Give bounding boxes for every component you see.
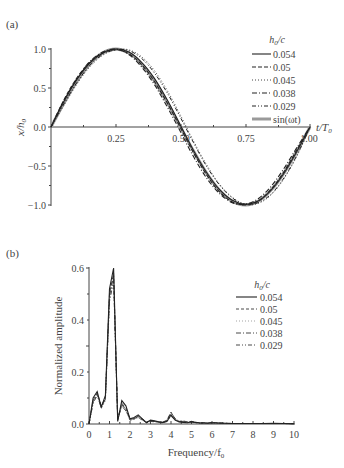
panel-a-x-label: t/T0 [316,121,332,135]
panel-a: (a) 1.0 0.5 0.0 −0.5 −1.0 x/h0 [6,18,332,211]
y-tick-label: 0.4 [72,315,85,326]
x-tick-label: 10 [289,429,299,440]
panel-b-y-tick-labels: 0.6 0.4 0.2 0.0 [72,263,85,430]
x-tick-label: 0.75 [237,133,255,144]
x-tick-label: 0 [87,429,92,440]
panel-a-legend: h0/c 0.054 0.05 0.045 0.038 0.029 sin(ωt… [252,34,301,126]
panel-b-x-label: Frequency/f0 [168,446,225,460]
panel-b: (b) 0.6 0.4 0.2 0.0 Normalized amplitude… [6,247,299,460]
y-tick-label: 0.0 [72,419,85,430]
y-tick-label: 0.0 [34,122,47,133]
x-tick-label: 6 [210,429,215,440]
x-tick-label: 3 [148,429,153,440]
legend-title: h0/c [269,34,285,47]
panel-b-label: (b) [6,247,19,260]
x-tick-label: 1 [107,429,112,440]
legend-item: 0.05 [273,62,291,73]
legend-item: 0.038 [273,88,296,99]
legend-item: 0.045 [260,316,283,327]
x-tick-label: 7 [230,429,235,440]
x-tick-label: 4 [169,429,174,440]
panel-b-x-tick-labels: 0 1 2 3 4 5 6 7 8 9 10 [87,429,300,440]
x-tick-label: 9 [271,429,276,440]
figure: (a) 1.0 0.5 0.0 −0.5 −1.0 x/h0 [0,0,344,468]
y-tick-label: −0.5 [28,161,46,172]
y-tick-label: 1.0 [34,44,47,55]
legend-item: sin(ωt) [273,114,301,126]
legend-item: 0.054 [260,292,283,303]
x-tick-label: 0.25 [107,133,125,144]
legend-item: 0.054 [273,49,296,60]
panel-a-y-tick-labels: 1.0 0.5 0.0 −0.5 −1.0 [28,44,46,211]
legend-title: h0/c [254,279,270,292]
panel-b-y-label: Normalized amplitude [52,297,64,396]
y-tick-label: −1.0 [28,200,46,211]
y-tick-label: 0.5 [34,83,47,94]
legend-item: 0.029 [273,101,296,112]
panel-a-y-label: x/h0 [14,119,28,137]
x-tick-label: 5 [189,429,194,440]
legend-item: 0.029 [260,340,283,351]
panel-a-label: (a) [6,18,19,31]
panel-b-legend: h0/c 0.054 0.05 0.045 0.038 0.029 [236,279,283,351]
legend-item: 0.038 [260,328,283,339]
x-tick-label: 8 [251,429,256,440]
legend-item: 0.05 [260,304,278,315]
y-tick-label: 0.6 [72,263,85,274]
panel-a-x-tick-labels: 0.25 0.50 0.75 1.00 [107,133,318,144]
y-tick-label: 0.2 [72,367,85,378]
x-tick-label: 2 [128,429,133,440]
legend-item: 0.045 [273,75,296,86]
